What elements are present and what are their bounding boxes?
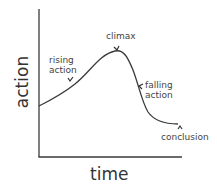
climax-label: climax — [106, 31, 136, 41]
conclusion-pointer-icon — [178, 126, 182, 129]
conclusion-label: conclusion — [161, 132, 209, 142]
falling-action-label: falling action — [145, 80, 173, 100]
rising-action-label: rising action — [49, 55, 77, 75]
climax-pointer-icon — [114, 46, 119, 50]
y-axis-label: action — [12, 52, 32, 112]
x-axis-label: time — [90, 164, 128, 184]
rising-action-line-1: rising — [49, 55, 77, 65]
rising-action-line-2: action — [49, 65, 77, 75]
rising-action-pointer-icon — [68, 77, 73, 81]
falling-action-line-2: action — [145, 90, 173, 100]
falling-action-line-1: falling — [145, 80, 173, 90]
